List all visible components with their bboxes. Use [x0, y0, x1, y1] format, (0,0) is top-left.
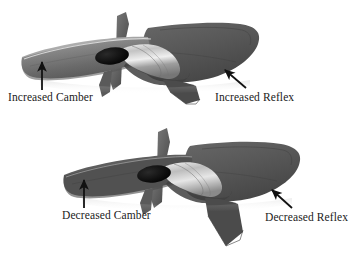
- label-increased-camber: Increased Camber: [8, 92, 93, 104]
- figure-container: Increased Camber Increased Reflex Decrea…: [0, 0, 354, 268]
- label-decreased-reflex: Decreased Reflex: [265, 212, 348, 224]
- lower-aircraft: [63, 128, 300, 246]
- aircraft-diagram: [0, 0, 354, 268]
- label-decreased-camber: Decreased Camber: [62, 210, 151, 222]
- label-increased-reflex: Increased Reflex: [215, 92, 294, 104]
